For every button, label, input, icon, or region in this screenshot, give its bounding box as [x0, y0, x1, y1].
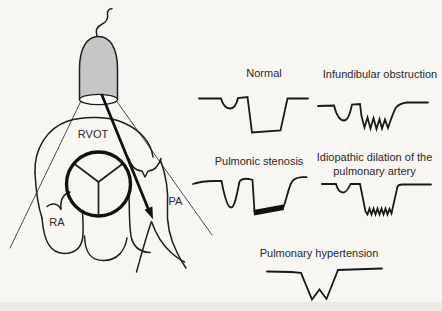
rv-pa-junction-line: [129, 192, 150, 253]
page-shadow-band: [0, 302, 442, 311]
pulmonary-artery-outer-wall: [161, 160, 187, 268]
mmode-beam-arrowhead-icon: [145, 207, 153, 220]
right-ventricle-lobe-outline: [85, 236, 128, 261]
tracing-pulmonary-hypertension-waveform: [267, 269, 382, 300]
pulmonary-artery-notch: [137, 222, 185, 273]
tracing-normal-waveform: [199, 97, 308, 133]
tracing-normal-label: Normal: [246, 67, 281, 79]
thickened-valve-segment: [254, 205, 285, 216]
tracing-infundibular-obstruction: Infundibular obstruction: [318, 68, 437, 129]
tracing-pulmonic-stenosis-label: Pulmonic stenosis: [215, 155, 304, 167]
tracing-pulmonic-stenosis: Pulmonic stenosis: [193, 155, 307, 216]
label-rvot: RVOT: [78, 128, 109, 140]
tracing-pulmonary-hypertension-label: Pulmonary hypertension: [260, 247, 379, 259]
beam-edge-left-line: [10, 101, 81, 248]
heart-outline-dome: [35, 117, 153, 173]
tracing-normal: Normal: [199, 67, 308, 133]
transducer-face: [80, 94, 118, 104]
tracing-idiopathic-waveform: [322, 184, 431, 215]
heart-diagram: RVOT RA PA: [10, 9, 212, 273]
label-ra: RA: [49, 216, 65, 228]
tracing-idiopathic-dilation: Idiopathic dilation of the pulmonary art…: [317, 151, 433, 215]
tracing-idiopathic-label-line1: Idiopathic dilation of the: [317, 151, 433, 163]
transducer-cable-icon: [96, 9, 112, 37]
tracing-infundibular-waveform: [318, 103, 428, 130]
tracing-idiopathic-label-line2: pulmonary artery: [333, 165, 416, 177]
valve-cusp-lines: [74, 164, 123, 217]
tracing-infundibular-label: Infundibular obstruction: [323, 68, 437, 80]
tracing-pulmonary-hypertension: Pulmonary hypertension: [260, 247, 382, 300]
figure-pulmonary-valve-mmode: RVOT RA PA Normal Infundibular obstructi…: [0, 0, 442, 311]
heart-outline-left-wall: [35, 173, 42, 218]
transducer-body: [80, 37, 118, 100]
label-pa: PA: [169, 195, 184, 207]
tracing-pulmonic-stenosis-waveform: [193, 177, 307, 211]
